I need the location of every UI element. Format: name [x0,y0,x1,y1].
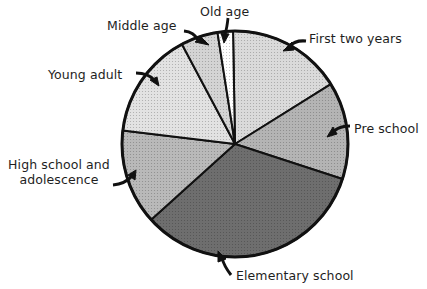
label-high-school-line1: High school and [3,157,115,172]
label-young-adult: Young adult [48,67,122,82]
label-elementary-school: Elementary school [236,268,354,283]
label-pre-school: Pre school [354,121,419,136]
label-old-age: Old age [200,4,249,19]
label-high-school: High school and adolescence [3,157,115,187]
label-high-school-line2: adolescence [3,172,115,187]
label-first-two-years: First two years [309,31,402,46]
label-middle-age: Middle age [107,18,177,33]
